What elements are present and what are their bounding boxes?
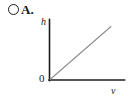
y-axis-label: h xyxy=(41,16,46,27)
radio-unselected-icon[interactable] xyxy=(8,4,19,15)
data-line-series-0 xyxy=(50,27,111,80)
answer-option-a[interactable]: A. xyxy=(8,3,34,16)
x-axis-label: v xyxy=(111,85,116,96)
origin-label: 0 xyxy=(39,72,45,84)
option-letter-label: A. xyxy=(21,3,34,16)
